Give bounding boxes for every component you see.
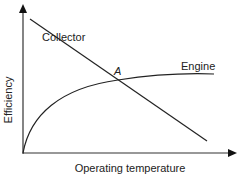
y-axis-label: Efficiency [2,76,14,123]
x-axis-label: Operating temperature [75,162,186,174]
y-axis-arrow-icon [19,4,27,13]
x-axis-arrow-icon [228,149,237,157]
engine-label: Engine [181,60,215,72]
intersection-label: A [113,65,121,77]
efficiency-diagram: Collector Engine A Operating temperature… [0,0,241,179]
collector-label: Collector [42,31,86,43]
engine-curve [23,74,214,153]
